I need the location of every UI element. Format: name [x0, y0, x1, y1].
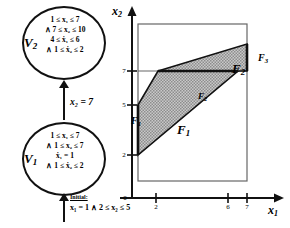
- x-tick-label-7: 7: [241, 203, 253, 211]
- y-axis-label-subscript: 2: [118, 10, 122, 19]
- node-v2-guard-line-1: 1 ≤ x₁ ≤ 7: [30, 15, 100, 25]
- edge-label-F2: F2: [198, 91, 207, 102]
- region-label-F1-subscript: 1: [186, 128, 190, 138]
- region-label-F1-text: F: [177, 122, 186, 137]
- edge-label-F3-subscript: 3: [265, 57, 268, 64]
- node-v2-guard-line-4: ∧ 1 ≤ ẋ₂ ≤ 2: [30, 45, 100, 55]
- x-tick-label-2: 2: [150, 203, 162, 211]
- transition-guard-label: x₂ = 7: [70, 97, 93, 107]
- initial-condition-caption: Initial:: [70, 194, 88, 200]
- figure-root: V2 1 ≤ x₁ ≤ 7 ∧ 7 ≤ x₂ ≤ 10 4 ≤ ẋ₁ ≤ 6 ∧…: [0, 0, 290, 228]
- region-label-F2: F2: [232, 61, 245, 77]
- region-label-F1: F1: [177, 122, 190, 138]
- edge-label-F2-subscript: 2: [204, 96, 207, 102]
- edge-label-F1-subscript: 1: [138, 120, 141, 127]
- y-axis-arrow-icon: [128, 6, 137, 16]
- initial-arrow-head-icon: [59, 193, 69, 201]
- node-v1-guard-line-3: ẋ₁ = 1: [30, 151, 100, 161]
- initial-arrow-shaft: [63, 200, 65, 222]
- transition-arrow-shaft: [63, 88, 65, 120]
- region-label-F2-subscript: 2: [241, 67, 245, 77]
- y-tick-label-5: 5: [118, 101, 130, 109]
- region-F1-shape: [138, 71, 238, 155]
- plot-svg: [108, 0, 290, 228]
- node-v2-guard-line-2: ∧ 7 ≤ x₂ ≤ 10: [30, 25, 100, 35]
- edge-label-F3: F3: [258, 52, 268, 64]
- node-v1-guards: 1 ≤ x₁ ≤ 7 ∧ 1 ≤ x₂ ≤ 7 ẋ₁ = 1 ∧ 1 ≤ ẋ₂ …: [30, 131, 100, 171]
- region-label-F2-text: F: [232, 61, 241, 76]
- node-v1-guard-line-4: ∧ 1 ≤ ẋ₂ ≤ 2: [30, 161, 100, 171]
- y-tick-label-2: 2: [118, 151, 130, 159]
- node-v1-guard-line-1: 1 ≤ x₁ ≤ 7: [30, 131, 100, 141]
- node-v2-guard-line-3: 4 ≤ ẋ₁ ≤ 6: [30, 35, 100, 45]
- y-axis-label: x2: [112, 4, 122, 19]
- x-axis-arrow-icon: [274, 194, 284, 203]
- edge-label-F1: F1: [131, 115, 141, 127]
- transition-arrow-head-icon: [59, 80, 69, 88]
- node-v2-guards: 1 ≤ x₁ ≤ 7 ∧ 7 ≤ x₂ ≤ 10 4 ≤ ẋ₁ ≤ 6 ∧ 1 …: [30, 15, 100, 55]
- x-axis-label: x1: [268, 203, 278, 218]
- x-axis-label-subscript: 1: [274, 209, 278, 218]
- edge-label-F1-text: F: [131, 115, 138, 126]
- x-tick-label-6: 6: [222, 203, 234, 211]
- state-space-plot: [108, 0, 290, 228]
- origin-label: 0: [119, 194, 131, 202]
- y-tick-label-7: 7: [118, 67, 130, 75]
- node-v1-guard-line-2: ∧ 1 ≤ x₂ ≤ 7: [30, 141, 100, 151]
- edge-label-F3-text: F: [258, 52, 265, 63]
